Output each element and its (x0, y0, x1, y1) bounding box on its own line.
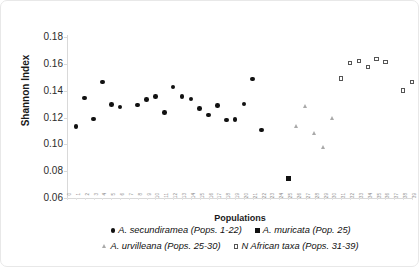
y-tick-label: 0.14 (44, 86, 63, 96)
x-tick-label: 36 (385, 193, 391, 207)
legend-entry: A. secundiramea (Pops. 1-22) (107, 223, 242, 238)
x-tick-label: 35 (377, 193, 383, 207)
data-point (410, 80, 414, 84)
x-tick-label: 6 (120, 193, 126, 207)
data-point (100, 80, 105, 85)
data-point (250, 77, 255, 82)
x-tick-label: 20 (244, 193, 250, 207)
x-tick-label: 39 (412, 193, 418, 207)
legend-label: A. muricata (Pop. 25) (263, 225, 351, 236)
x-tick-label: 10 (155, 193, 161, 207)
legend-label: N African taxa (Pops. 31-39) (242, 241, 359, 252)
x-tick-label: 3 (94, 193, 100, 207)
x-tick-label: 4 (102, 193, 108, 207)
data-point (374, 57, 378, 61)
data-point (286, 176, 291, 181)
x-tick-label: 33 (359, 193, 365, 207)
x-tick-label: 18 (226, 193, 232, 207)
x-tick-label: 32 (350, 193, 356, 207)
x-tick-label: 38 (403, 193, 409, 207)
y-tick-label: 0.16 (44, 59, 63, 69)
x-tick-label: 25 (288, 193, 294, 207)
legend-entry: A. urvilleana (Pops. 25-30) (99, 239, 220, 254)
data-point (303, 104, 307, 108)
data-point (259, 128, 264, 133)
x-tick-label: 5 (111, 193, 117, 207)
data-point (383, 60, 387, 64)
data-point (330, 116, 334, 120)
x-tick-label: 2 (85, 193, 91, 207)
data-point (233, 117, 238, 122)
data-point (215, 103, 220, 108)
x-tick-label: 37 (394, 193, 400, 207)
data-point (348, 61, 352, 65)
x-tick-label: 14 (191, 193, 197, 207)
data-point (224, 118, 229, 123)
data-point (91, 117, 96, 122)
data-point (162, 110, 167, 115)
y-tick-label: 0.06 (44, 193, 63, 203)
x-tick-label: 19 (235, 193, 241, 207)
data-point (153, 94, 158, 99)
x-tick-label: 31 (341, 193, 347, 207)
x-tick-label: 28 (315, 193, 321, 207)
legend-row: A. secundiramea (Pops. 1-22)A. muricata … (59, 223, 399, 238)
legend-row: A. urvilleana (Pops. 25-30)N African tax… (59, 239, 399, 254)
x-tick-label: 23 (270, 193, 276, 207)
x-tick-label: 24 (279, 193, 285, 207)
x-tick-label: 11 (164, 193, 170, 207)
x-tick-label: 30 (332, 193, 338, 207)
y-tick-label: 0.08 (44, 166, 63, 176)
data-point (366, 65, 370, 69)
legend-marker-circle-filled-icon (107, 225, 118, 236)
x-tick-label: 34 (368, 193, 374, 207)
y-axis-tick-labels: 0.180.160.140.120.100.080.06 (21, 1, 63, 267)
data-point (74, 124, 79, 129)
data-point (312, 131, 316, 135)
chart-figure: Shannon Index 0.180.160.140.120.100.080.… (0, 0, 419, 267)
x-tick-label: 0 (67, 193, 73, 207)
x-tick-label: 1 (76, 193, 82, 207)
x-tick-label: 29 (324, 193, 330, 207)
x-tick-label: 17 (217, 193, 223, 207)
x-tick-label: 15 (200, 193, 206, 207)
data-point (109, 102, 114, 107)
data-point (294, 124, 298, 128)
legend-label: A. urvilleana (Pops. 25-30) (110, 241, 220, 252)
data-point (357, 59, 361, 63)
x-axis-tick-labels: 0123456789101112131415161718192021222324… (67, 200, 413, 214)
chart-legend: A. secundiramea (Pops. 1-22)A. muricata … (59, 223, 399, 259)
data-point (144, 97, 149, 102)
x-tick-label: 7 (129, 193, 135, 207)
data-point (197, 106, 202, 111)
x-axis-title: Populations (67, 213, 413, 223)
legend-marker-square-filled-icon (252, 225, 263, 236)
data-point (321, 145, 325, 149)
x-tick-label: 12 (173, 193, 179, 207)
legend-entry: A. muricata (Pop. 25) (252, 223, 351, 238)
legend-entry: N African taxa (Pops. 31-39) (231, 239, 359, 254)
x-tick-label: 27 (306, 193, 312, 207)
x-tick-label: 16 (209, 193, 215, 207)
y-tick-label: 0.10 (44, 139, 63, 149)
data-point (180, 94, 185, 99)
x-tick-label: 21 (253, 193, 259, 207)
x-tick-label: 8 (138, 193, 144, 207)
legend-marker-triangle-up-icon (99, 241, 110, 252)
x-tick-label: 22 (262, 193, 268, 207)
legend-marker-square-open-icon (231, 241, 242, 252)
data-point (401, 88, 405, 92)
x-tick-label: 13 (182, 193, 188, 207)
y-tick-label: 0.18 (44, 32, 63, 42)
data-point (339, 76, 343, 80)
x-tick-label: 9 (147, 193, 153, 207)
legend-label: A. secundiramea (Pops. 1-22) (118, 225, 242, 236)
data-point (206, 113, 211, 118)
y-tick-label: 0.12 (44, 113, 63, 123)
x-tick-label: 26 (297, 193, 303, 207)
